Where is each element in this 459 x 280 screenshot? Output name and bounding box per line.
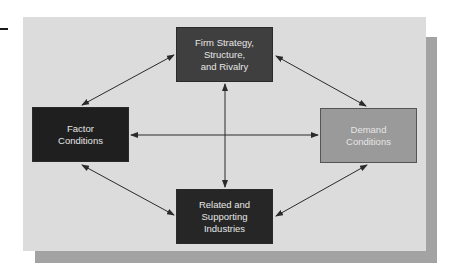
node-label-line: Demand [346, 124, 391, 136]
arrow-firm-demand [276, 56, 366, 106]
node-label-line: Supporting [199, 211, 250, 223]
node-label-line: Industries [199, 223, 250, 235]
node-label-line: Firm Strategy, [195, 37, 254, 49]
node-label-line: Factor [58, 123, 103, 135]
node-factor-conditions: Factor Conditions [32, 107, 129, 162]
node-demand-conditions: Demand Conditions [320, 108, 417, 163]
arrow-demand-related [276, 165, 367, 216]
node-label-line: Conditions [58, 135, 103, 147]
node-related-supporting: Related and Supporting Industries [176, 189, 273, 244]
node-firm-strategy: Firm Strategy, Structure, and Rivalry [176, 27, 273, 82]
node-label-line: Related and [199, 199, 250, 211]
arrow-firm-factor [82, 55, 174, 105]
node-label-line: Structure, [195, 49, 254, 61]
arrow-factor-related [82, 165, 174, 215]
node-label-line: Conditions [346, 136, 391, 148]
node-label-line: and Rivalry [195, 61, 254, 73]
